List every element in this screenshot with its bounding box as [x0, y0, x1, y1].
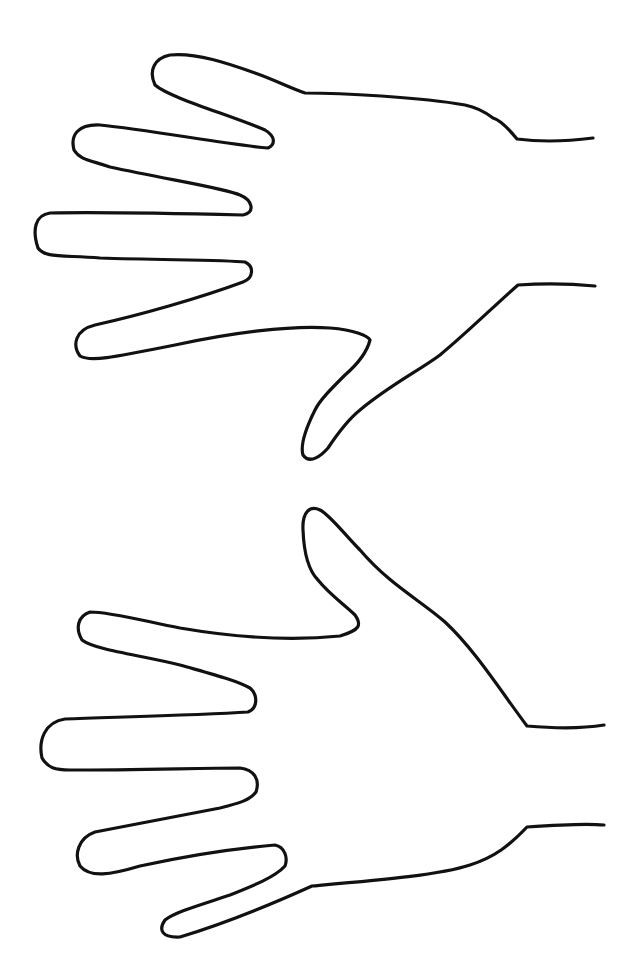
top-hand-outline — [35, 55, 595, 460]
bottom-hand-outline — [41, 508, 604, 937]
hands-drawing — [0, 0, 635, 963]
